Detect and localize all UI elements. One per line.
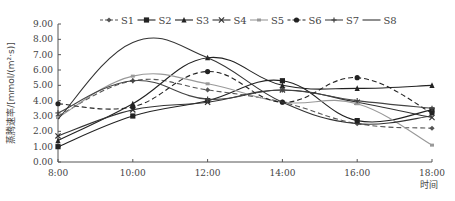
legend-label: S5 <box>271 15 284 26</box>
x-tick-label: 10:00 <box>120 168 146 178</box>
legend-item-s7: S7 <box>325 15 359 26</box>
legend-label: S6 <box>309 15 322 26</box>
y-tick-label: 9.00 <box>33 19 53 29</box>
legend-label: S7 <box>346 15 359 26</box>
transpiration-line-chart: S1S2S3S4S5S6S7S8 0.001.002.003.004.005.0… <box>0 0 455 201</box>
y-tick-label: 7.00 <box>33 50 53 60</box>
legend-item-s4: S4 <box>213 15 247 26</box>
y-tick-label: 4.00 <box>33 96 53 106</box>
legend-label: S8 <box>384 15 397 26</box>
legend-label: S2 <box>159 15 172 26</box>
legend-label: S4 <box>234 15 247 26</box>
series-s5 <box>56 74 434 147</box>
legend-item-s6: S6 <box>288 15 322 26</box>
x-axis-title: 时间 <box>420 179 438 190</box>
series-lines <box>55 38 434 149</box>
series-s2 <box>55 78 434 149</box>
series-s3 <box>55 55 434 144</box>
legend-item-s1: S1 <box>100 15 134 26</box>
legend-item-s2: S2 <box>138 15 172 26</box>
y-tick-label: 2.00 <box>33 126 53 136</box>
x-tick-label: 14:00 <box>269 168 295 178</box>
x-tick-label: 18:00 <box>419 168 445 178</box>
y-tick-label: 5.00 <box>33 80 53 90</box>
x-tick-label: 8:00 <box>48 168 68 178</box>
legend-item-s8: S8 <box>363 15 397 26</box>
y-tick-label: 6.00 <box>33 65 53 75</box>
y-tick-label: 1.00 <box>33 142 53 152</box>
y-tick-label: 8.00 <box>33 34 53 44</box>
y-tick-label: 3.00 <box>33 111 53 121</box>
x-tick-label: 12:00 <box>195 168 221 178</box>
y-axis-title: 蒸腾速率/[mmol/(m²·s)] <box>5 42 16 144</box>
series-s6 <box>55 69 434 116</box>
legend-item-s5: S5 <box>250 15 284 26</box>
chart-legend: S1S2S3S4S5S6S7S8 <box>100 15 397 26</box>
legend-label: S3 <box>196 15 209 26</box>
x-tick-label: 16:00 <box>344 168 370 178</box>
legend-item-s3: S3 <box>175 15 209 26</box>
legend-label: S1 <box>121 15 134 26</box>
y-tick-label: 0.00 <box>33 157 53 167</box>
x-axis: 8:0010:0012:0014:0016:0018:00 <box>48 159 445 178</box>
